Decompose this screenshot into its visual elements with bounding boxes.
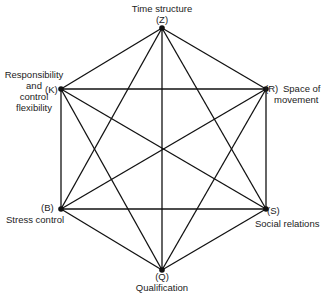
edge-s-q — [162, 209, 266, 270]
hexagon-diagram — [0, 0, 328, 295]
node-label-space-of-movement: Space of movement — [283, 83, 321, 105]
node-q-label: Qualification — [122, 282, 202, 293]
node-b-code: (B) — [41, 202, 54, 213]
node-z-label: Time structure — [112, 3, 212, 14]
node-z-code: (Z) — [112, 14, 212, 25]
node-r-label-line1: Space of — [283, 83, 321, 94]
node-s-code: (S) — [267, 205, 280, 216]
node-z-dot — [159, 25, 165, 31]
node-b-dot — [58, 206, 64, 212]
node-r-label-line2: movement — [274, 94, 321, 105]
edge-z-k — [61, 28, 162, 89]
node-label-social-relations: Social relations — [255, 218, 319, 229]
node-k-label-line1: Responsibility — [2, 69, 66, 80]
node-label-qualification: (Q) Qualification — [122, 271, 202, 293]
node-label-stress-control: Stress control — [6, 214, 64, 225]
edge-z-s — [162, 28, 266, 209]
node-label-time-structure: Time structure (Z) — [112, 3, 212, 25]
edge-q-k — [61, 89, 162, 270]
node-r-code: (R) — [265, 83, 278, 94]
diagram-edges — [61, 28, 266, 270]
edge-r-q — [162, 89, 266, 270]
node-k-code: (K) — [45, 84, 58, 95]
node-q-code: (Q) — [122, 271, 202, 282]
edge-q-b — [61, 209, 162, 270]
edge-z-r — [162, 28, 266, 89]
node-k-label-line4: flexibility — [2, 102, 66, 113]
